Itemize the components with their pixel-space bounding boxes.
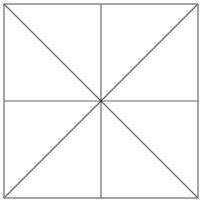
center-point: [100, 100, 102, 102]
square-diagram: [0, 0, 207, 205]
